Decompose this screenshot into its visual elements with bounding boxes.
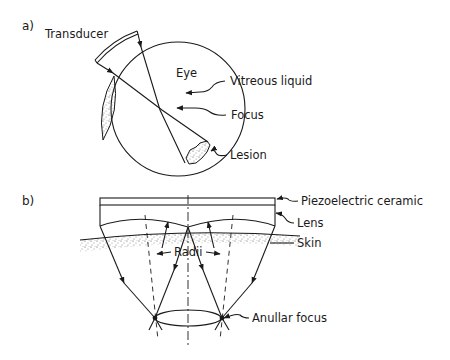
label-radii: Radii [174,245,202,259]
piezo-plate [100,198,275,205]
label-vitreous-liquid: Vitreous liquid [230,74,312,88]
panel-a-label: a) [22,19,34,33]
leader-lesion [211,150,227,155]
label-focus: Focus [231,108,264,122]
radii-arrow-left [157,252,171,254]
cornea-region [101,76,115,140]
leader-focus [177,108,226,115]
leader-vitreous [186,81,225,93]
lesion-shape [186,141,210,164]
label-anullar-focus: Anullar focus [252,311,327,325]
beam-outer-left [100,226,124,283]
diagram-canvas: a) Transducer Eye Vitreous liquid Focus … [0,0,450,360]
beam-arrow-2 [138,34,141,47]
lens-arc-left [100,219,188,227]
beam-arrow-1 [97,63,113,73]
label-transducer: Transducer [44,27,108,41]
label-eye: Eye [176,66,197,80]
label-lens: Lens [297,216,324,230]
beam-divergence [149,318,229,330]
label-piezoelectric-ceramic: Piezoelectric ceramic [301,194,423,208]
radii-arrow-right [206,252,220,254]
leader-anullar-focus [224,314,249,318]
beam-2 [141,47,185,163]
label-skin: Skin [297,236,321,250]
panel-b-label: b) [22,194,34,208]
label-lesion: Lesion [230,148,267,162]
panel-a: a) Transducer Eye Vitreous liquid Focus … [22,19,312,176]
leader-piezo [277,198,298,201]
panel-b: b) Radii [22,194,423,345]
leader-lens [276,213,294,223]
